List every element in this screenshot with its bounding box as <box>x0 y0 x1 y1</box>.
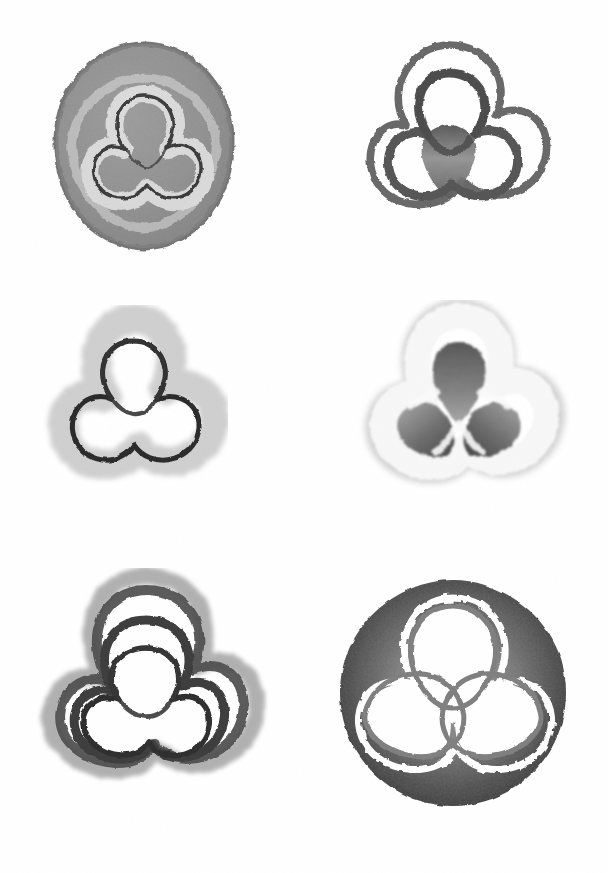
figure-bottom-right <box>330 570 576 814</box>
sketch-sheet <box>0 0 608 873</box>
figure-top-left <box>48 38 240 254</box>
figure-middle-right <box>348 300 570 518</box>
figure-top-right <box>340 33 558 255</box>
figure-middle-left <box>38 305 228 505</box>
figure-bottom-left <box>24 568 268 830</box>
